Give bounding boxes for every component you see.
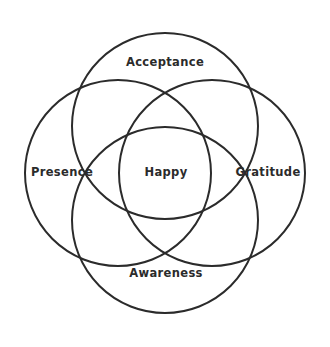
label-presence: Presence [31, 167, 93, 179]
label-awareness: Awareness [129, 268, 203, 280]
label-acceptance: Acceptance [126, 57, 204, 69]
venn-diagram: Acceptance Presence Gratitude Awareness … [0, 0, 330, 347]
label-gratitude: Gratitude [235, 167, 300, 179]
label-happy-intersection: Happy [144, 167, 187, 179]
